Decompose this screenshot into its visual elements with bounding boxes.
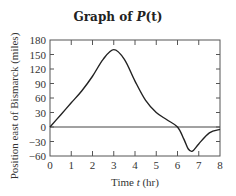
plot-area: 0123456781801501209060300−30−60Time t (h… bbox=[0, 0, 236, 196]
y-tick-label: −30 bbox=[29, 136, 47, 148]
y-tick-label: −60 bbox=[29, 150, 47, 162]
series-line-P bbox=[50, 50, 220, 152]
y-axis-label: Position east of Bismarck (miles) bbox=[8, 32, 21, 179]
x-tick-label: 6 bbox=[175, 159, 181, 171]
y-tick-label: 180 bbox=[30, 34, 47, 46]
y-tick-label: 0 bbox=[41, 121, 47, 133]
y-tick-label: 60 bbox=[35, 92, 47, 104]
x-tick-label: 0 bbox=[47, 159, 53, 171]
x-tick-label: 4 bbox=[132, 159, 138, 171]
x-tick-label: 5 bbox=[154, 159, 160, 171]
x-tick-label: 2 bbox=[90, 159, 96, 171]
y-tick-label: 150 bbox=[30, 49, 47, 61]
chart: Graph of P(t) 0123456781801501209060300−… bbox=[0, 0, 236, 196]
x-tick-label: 3 bbox=[111, 159, 117, 171]
x-tick-label: 8 bbox=[217, 159, 223, 171]
x-tick-label: 7 bbox=[196, 159, 202, 171]
x-axis-label: Time t (hr) bbox=[111, 176, 159, 189]
y-tick-label: 30 bbox=[35, 107, 47, 119]
y-tick-label: 90 bbox=[35, 78, 47, 90]
x-tick-label: 1 bbox=[69, 159, 75, 171]
y-tick-label: 120 bbox=[30, 63, 47, 75]
